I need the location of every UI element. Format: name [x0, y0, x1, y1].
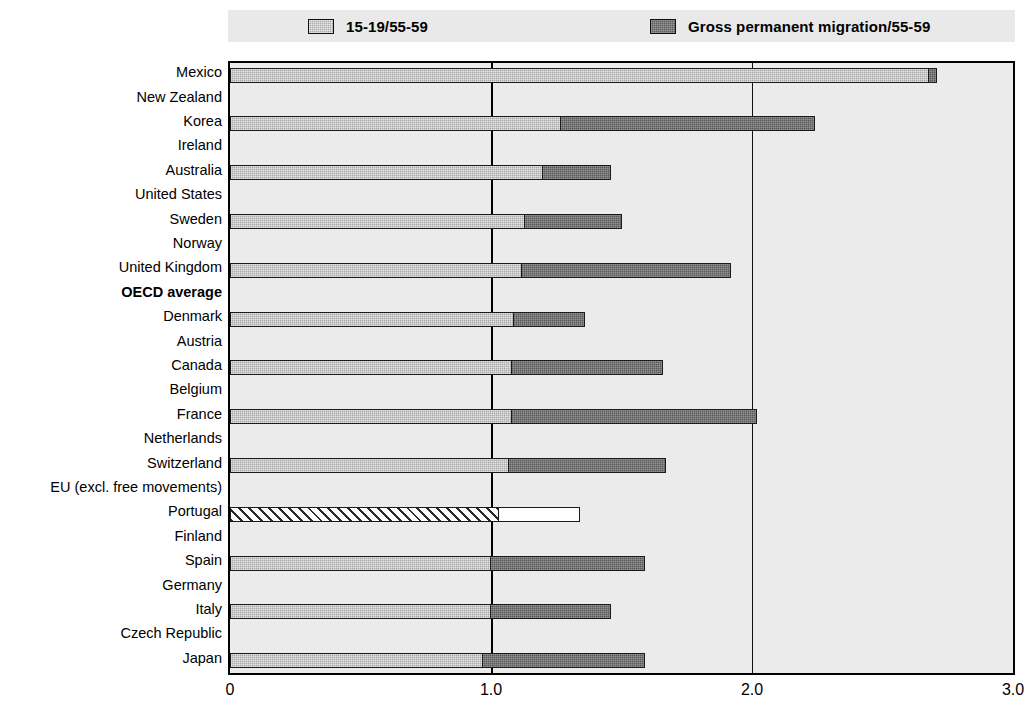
bar-ratio-15-19 — [230, 68, 929, 83]
y-axis-label-new-zealand: New Zealand — [137, 90, 222, 105]
y-axis-label-czech-republic: Czech Republic — [120, 626, 222, 641]
chart-row — [230, 527, 1013, 551]
y-axis-label-australia: Australia — [166, 163, 222, 178]
chart-row — [230, 380, 1013, 404]
chart-row — [230, 283, 1013, 307]
chart-row — [230, 234, 1013, 258]
y-axis-label-mexico: Mexico — [176, 65, 222, 80]
chart-row — [230, 136, 1013, 160]
chart-row — [230, 112, 1013, 136]
y-axis-label-austria: Austria — [177, 334, 222, 349]
y-axis-label-denmark: Denmark — [163, 309, 222, 324]
legend-label-dark: Gross permanent migration/55-59 — [688, 18, 930, 35]
y-axis-label-korea: Korea — [183, 114, 222, 129]
plot-inner — [230, 63, 1013, 673]
chart-row — [230, 600, 1013, 624]
legend-item-light: 15-19/55-59 — [308, 18, 428, 35]
y-axis-label-switzerland: Switzerland — [147, 456, 222, 471]
chart-row — [230, 258, 1013, 282]
y-axis-label-italy: Italy — [195, 602, 222, 617]
plot-area — [228, 61, 1015, 675]
y-axis-label-germany: Germany — [162, 578, 222, 593]
chart-row — [230, 502, 1013, 526]
x-axis-labels: 01.02.03.0 — [0, 681, 1032, 711]
y-axis-label-eu-excl-free-movements: EU (excl. free movements) — [50, 480, 222, 495]
x-axis-tick-3-0: 3.0 — [1002, 681, 1024, 699]
chart-row — [230, 575, 1013, 599]
chart-row — [230, 429, 1013, 453]
chart-row — [230, 209, 1013, 233]
chart-row — [230, 649, 1013, 673]
y-axis-label-canada: Canada — [171, 358, 222, 373]
x-axis-tick-0: 0 — [226, 681, 235, 699]
y-axis-label-united-kingdom: United Kingdom — [119, 260, 222, 275]
chart-root: 15-19/55-59 Gross permanent migration/55… — [0, 0, 1032, 715]
chart-row — [230, 405, 1013, 429]
chart-row — [230, 551, 1013, 575]
y-axis-label-france: France — [177, 407, 222, 422]
y-axis-label-spain: Spain — [185, 553, 222, 568]
chart-legend: 15-19/55-59 Gross permanent migration/55… — [228, 10, 1015, 42]
y-axis-label-sweden: Sweden — [170, 212, 222, 227]
chart-row — [230, 453, 1013, 477]
legend-swatch-light-icon — [308, 19, 334, 34]
y-axis-label-portugal: Portugal — [168, 504, 222, 519]
y-axis-label-belgium: Belgium — [170, 382, 222, 397]
y-axis-label-norway: Norway — [173, 236, 222, 251]
chart-row — [230, 161, 1013, 185]
legend-label-light: 15-19/55-59 — [346, 18, 428, 35]
y-axis-labels: MexicoNew ZealandKoreaIrelandAustraliaUn… — [0, 61, 222, 675]
y-axis-label-oecd-average: OECD average — [121, 285, 222, 300]
chart-row — [230, 478, 1013, 502]
chart-row — [230, 624, 1013, 648]
y-axis-label-finland: Finland — [174, 529, 222, 544]
y-axis-label-ireland: Ireland — [178, 138, 222, 153]
x-axis-tick-1-0: 1.0 — [480, 681, 502, 699]
chart-row — [230, 87, 1013, 111]
y-axis-label-netherlands: Netherlands — [144, 431, 222, 446]
chart-row — [230, 185, 1013, 209]
x-axis-tick-2-0: 2.0 — [741, 681, 763, 699]
y-axis-label-japan: Japan — [182, 651, 222, 666]
legend-item-dark: Gross permanent migration/55-59 — [650, 18, 930, 35]
chart-row — [230, 307, 1013, 331]
y-axis-label-united-states: United States — [135, 187, 222, 202]
chart-row — [230, 331, 1013, 355]
chart-row — [230, 356, 1013, 380]
chart-row — [230, 63, 1013, 87]
legend-swatch-dark-icon — [650, 19, 676, 34]
